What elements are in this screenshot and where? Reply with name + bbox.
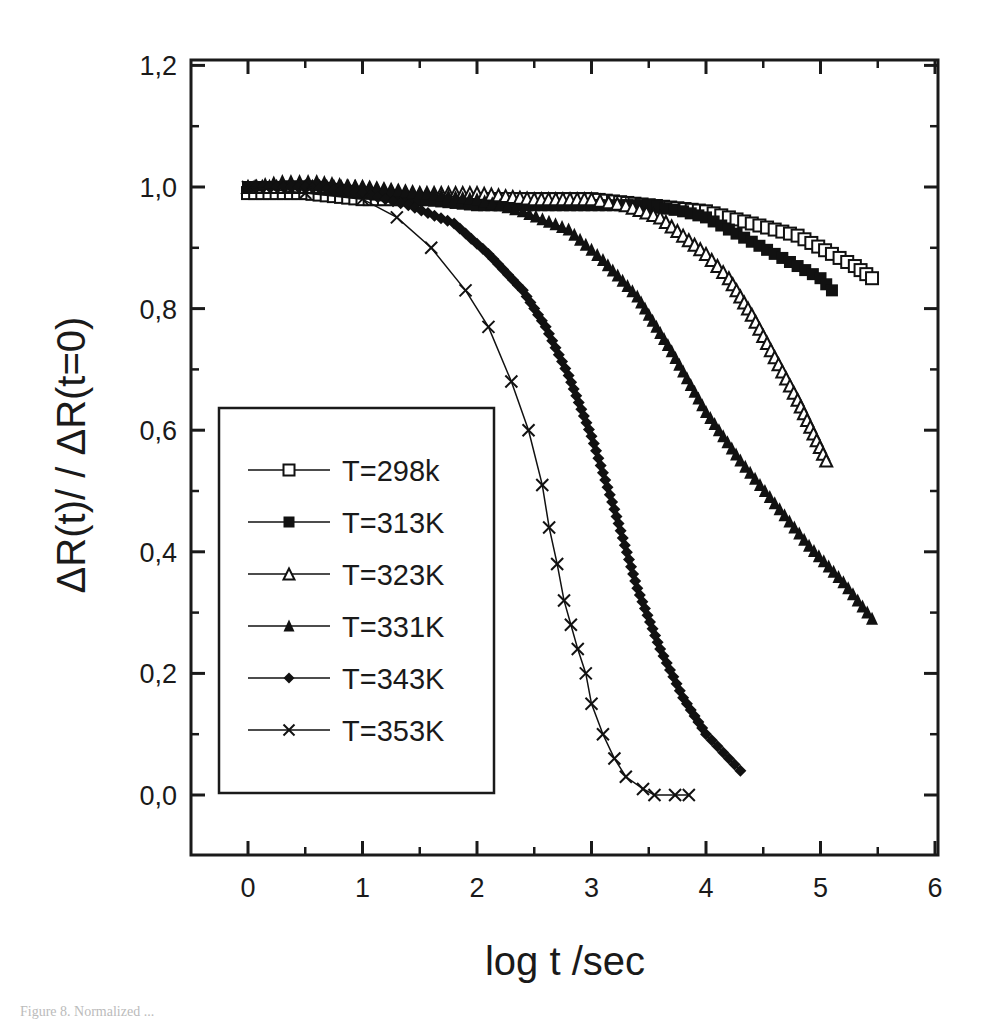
y-tick-label: 0,4 <box>139 538 177 568</box>
x-tick-label: 0 <box>240 873 255 903</box>
x-tick-label: 6 <box>927 873 942 903</box>
legend-label: T=313K <box>342 507 445 539</box>
x-tick-label: 2 <box>469 873 484 903</box>
y-tick-label: 1,0 <box>139 173 177 203</box>
x-axis-title: log t /sec <box>485 939 645 983</box>
y-tick-label: 0,2 <box>139 659 177 689</box>
legend-label: T=343K <box>342 663 445 695</box>
x-tick-label: 1 <box>355 873 370 903</box>
x-tick-label: 4 <box>698 873 713 903</box>
y-tick-label: 0,8 <box>139 295 177 325</box>
figure-caption: Figure 8. Normalized ... <box>20 1004 154 1020</box>
legend-label: T=353K <box>342 715 445 747</box>
x-tick-label: 3 <box>584 873 599 903</box>
legend-label: T=298k <box>342 455 440 487</box>
y-tick-label: 0,6 <box>139 416 177 446</box>
legend-label: T=331K <box>342 611 445 643</box>
y-tick-label: 0,0 <box>139 781 177 811</box>
chart-figure: 01234560,00,20,40,60,81,01,2 T=298kT=313… <box>0 0 985 1025</box>
legend: T=298kT=313KT=323KT=331KT=343KT=353K <box>219 408 494 793</box>
y-axis-title: ΔR(t)/ / ΔR(t=0) <box>49 317 93 594</box>
x-tick-label: 5 <box>813 873 828 903</box>
legend-label: T=323K <box>342 559 445 591</box>
y-tick-label: 1,2 <box>139 51 177 81</box>
